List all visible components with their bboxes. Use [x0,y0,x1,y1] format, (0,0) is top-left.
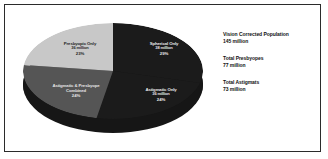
legend-item-value: 73 million [223,86,319,92]
legend-item-title: Vision Corrected Population [223,31,319,37]
pie-chart: Spherical Only 38 million 29% Astigmatic… [5,5,220,153]
legend-item-title: Total Presbyopes [223,55,319,61]
legend-item-total-presbyopes: Total Presbyopes 77 million [223,55,319,68]
legend-item-title: Total Astigmats [223,79,319,85]
pie-graphic: Spherical Only 38 million 29% Astigmatic… [23,23,203,135]
legend-item-total-astigmats: Total Astigmats 73 million [223,79,319,92]
pie-slice-presbyopic-only [24,23,113,71]
legend-item-value: 145 million [223,38,319,44]
legend-item-value: 77 million [223,62,319,68]
chart-frame: Spherical Only 38 million 29% Astigmatic… [4,4,321,152]
legend: Vision Corrected Population 145 million … [223,31,319,103]
pie-top-face [23,23,203,119]
legend-item-vision-corrected-population: Vision Corrected Population 145 million [223,31,319,44]
